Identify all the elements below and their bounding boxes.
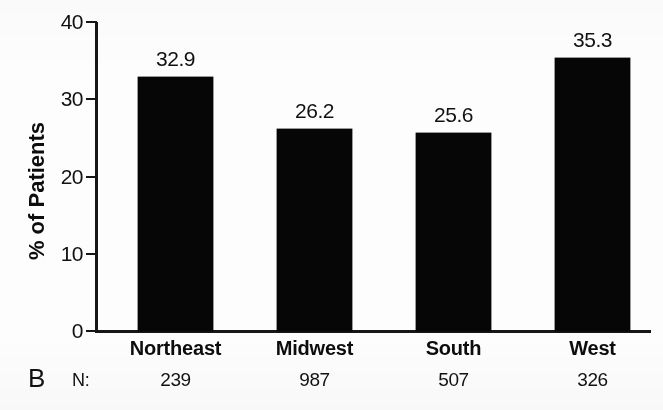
bar-value-label: 26.2 — [270, 100, 360, 121]
y-axis-tick — [86, 98, 97, 100]
sample-size-value: 507 — [404, 370, 504, 389]
category-label: South — [384, 337, 524, 360]
figure-panel: 010203040 % of Patients 32.926.225.635.3… — [0, 0, 663, 410]
y-axis-tick-label: 40 — [43, 11, 83, 32]
bar-value-label: 32.9 — [131, 48, 221, 69]
category-label: West — [523, 337, 663, 360]
bar[interactable] — [416, 133, 491, 331]
panel-letter: B — [28, 365, 45, 391]
y-axis-tick-label: 0 — [43, 320, 83, 341]
bar-value-label: 35.3 — [548, 29, 638, 50]
bar[interactable] — [277, 129, 352, 331]
category-label: Midwest — [245, 337, 385, 360]
sample-size-row-label: N: — [72, 371, 89, 389]
y-axis-tick — [86, 330, 97, 332]
bar-value-label: 25.6 — [409, 104, 499, 125]
bar-chart: 010203040 % of Patients 32.926.225.635.3… — [0, 0, 663, 410]
y-axis-tick — [86, 176, 97, 178]
y-axis-title: % of Patients — [24, 76, 50, 306]
y-axis-tick — [86, 253, 97, 255]
category-label: Northeast — [106, 337, 246, 360]
bar[interactable] — [138, 77, 213, 331]
sample-size-value: 326 — [543, 370, 643, 389]
sample-size-value: 987 — [265, 370, 365, 389]
sample-size-value: 239 — [126, 370, 226, 389]
y-axis-tick — [86, 21, 97, 23]
bar[interactable] — [555, 58, 630, 331]
